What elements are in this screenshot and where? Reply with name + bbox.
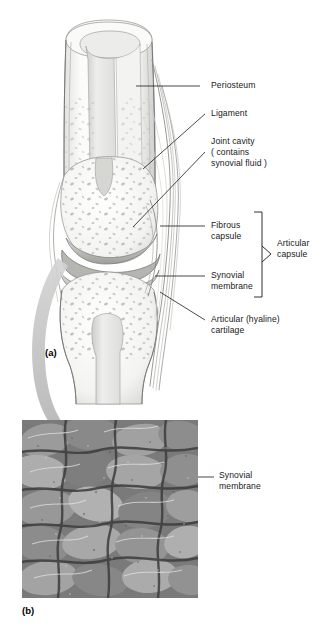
label-periosteum: Periosteum xyxy=(211,80,255,91)
label-fibrous-capsule: Fibrous capsule xyxy=(211,220,241,242)
label-synovial-membrane-line2: membrane xyxy=(211,281,253,292)
label-articular-cartilage-line2: cartilage xyxy=(211,325,280,336)
label-articular-capsule: Articular capsule xyxy=(277,238,309,260)
label-ligament: Ligament xyxy=(211,108,247,119)
label-articular-capsule-line1: Articular xyxy=(277,238,309,249)
panel-letter-a: (a) xyxy=(45,347,57,358)
label-joint-cavity-line1: Joint cavity xyxy=(211,136,267,147)
lower-marrow-cavity xyxy=(92,314,123,405)
label-articular-cartilage: Articular (hyaline) cartilage xyxy=(211,314,280,336)
label-joint-cavity-line3: synovial fluid ) xyxy=(211,158,267,169)
label-fibrous-capsule-line1: Fibrous xyxy=(211,220,241,231)
label-joint-cavity: Joint cavity ( contains synovial fluid ) xyxy=(211,136,267,169)
label-synovial-membrane: Synovial membrane xyxy=(211,270,253,292)
label-articular-cartilage-line1: Articular (hyaline) xyxy=(211,314,280,325)
panel-letter-b: (b) xyxy=(22,605,34,616)
figure-canvas xyxy=(0,0,336,631)
micrograph-texture xyxy=(10,414,214,600)
label-synovial-membrane-micrograph: Synovial membrane xyxy=(219,470,261,492)
label-articular-capsule-line2: capsule xyxy=(277,249,309,260)
label-synovial-membrane-line1: Synovial xyxy=(211,270,253,281)
label-joint-cavity-line2: ( contains xyxy=(211,147,267,158)
label-fibrous-capsule-line2: capsule xyxy=(211,231,241,242)
label-synovial-membrane-micrograph-line1: Synovial xyxy=(219,470,261,481)
synovial-joint-figure: Periosteum Ligament Joint cavity ( conta… xyxy=(0,0,336,631)
synovial-membrane-micrograph xyxy=(10,414,214,600)
label-synovial-membrane-micrograph-line2: membrane xyxy=(219,481,261,492)
